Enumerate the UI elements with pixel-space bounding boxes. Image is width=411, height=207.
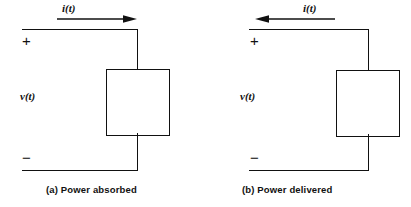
- caption-b: (b) Power delivered: [242, 184, 332, 195]
- right-wire-lower-b: [368, 134, 369, 171]
- panel-power-delivered: i(t) + − v(t) (b) Power delivered: [206, 0, 411, 207]
- current-arrow-right-icon: [57, 14, 137, 24]
- circuit-element-box-b: [336, 70, 400, 137]
- top-wire-a: [22, 29, 138, 30]
- current-label-a: i(t): [62, 3, 75, 14]
- right-wire-upper-b: [368, 29, 369, 71]
- bottom-wire-b: [249, 170, 369, 171]
- right-wire-lower-a: [137, 133, 138, 171]
- voltage-label-a: v(t): [20, 91, 35, 102]
- right-wire-upper-a: [137, 29, 138, 70]
- top-wire-b: [249, 29, 369, 30]
- circuit-figure: i(t) + − v(t) (a) Power absorbed i(t: [0, 0, 411, 207]
- voltage-label-b: v(t): [240, 91, 255, 102]
- panel-power-absorbed: i(t) + − v(t) (a) Power absorbed: [0, 0, 205, 207]
- plus-terminal-a: +: [22, 33, 31, 48]
- minus-terminal-b: −: [250, 150, 259, 165]
- current-label-b: i(t): [303, 3, 316, 14]
- minus-terminal-a: −: [22, 150, 31, 165]
- circuit-element-box-a: [106, 69, 170, 136]
- plus-terminal-b: +: [250, 33, 259, 48]
- bottom-wire-a: [22, 170, 138, 171]
- current-arrow-left-icon: [255, 14, 335, 24]
- caption-a: (a) Power absorbed: [46, 184, 137, 195]
